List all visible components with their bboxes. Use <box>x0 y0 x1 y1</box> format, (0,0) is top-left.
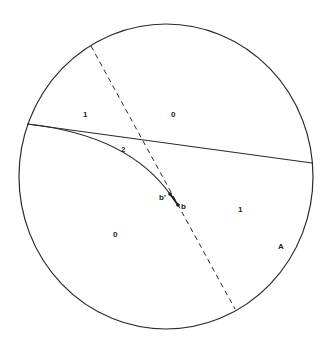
point-b-prime-marker <box>168 192 172 196</box>
diagram-canvas: 1 0 2 0 1 b' b A <box>0 0 330 345</box>
boundary-circle <box>19 24 313 329</box>
label-region-upper-right: 0 <box>171 110 176 119</box>
label-point-b-prime: b' <box>159 193 166 202</box>
diagram-svg: 1 0 2 0 1 b' b A <box>0 0 330 345</box>
label-point-b: b <box>181 202 186 211</box>
point-b-marker <box>176 203 180 207</box>
dashed-line <box>91 46 235 309</box>
curved-boundary <box>27 124 172 197</box>
solid-chord-line <box>27 124 312 163</box>
label-region-lower-right: 1 <box>238 205 243 214</box>
b-arrow-segment <box>170 194 178 205</box>
label-region-lens: 2 <box>121 145 126 154</box>
label-region-lower-left: 0 <box>113 230 118 239</box>
label-corner-a: A <box>278 242 284 251</box>
label-region-upper-left: 1 <box>83 110 88 119</box>
